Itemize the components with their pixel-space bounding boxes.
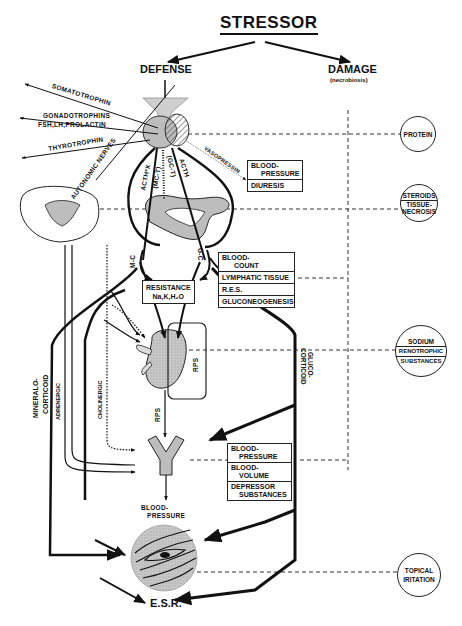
mineralocorticoid-path: [50, 268, 137, 555]
circle-steroids: STEROIDS TISSUE- NECROSIS: [400, 184, 438, 222]
label-glucocorticoid-1: GLUCO-: [307, 352, 314, 378]
retina-circle: [131, 525, 197, 591]
circle-protein: PROTEIN: [400, 116, 436, 152]
label-adrenergic: ADRENERGIC: [56, 383, 62, 420]
label-mineralocorticoid-1: MINERALO-: [32, 378, 39, 418]
label-fsh-lh-prolactin: FSH,LH,PROLACTIN: [38, 122, 106, 129]
box-vasopressin-effects: BLOOD-PRESSURE DIURESIS: [247, 160, 303, 192]
label-rps-kidney: RPS: [193, 358, 200, 372]
label-defense: DEFENSE: [140, 64, 192, 75]
label-blood-pressure-2: PRESSURE: [147, 513, 185, 520]
blood-vessel: [148, 436, 184, 475]
label-g-c: G-C: [197, 248, 204, 261]
box-resistance: RESISTANCE Na,K,H₂O: [142, 280, 195, 304]
label-mineralocorticoid-2: CORTICOID: [42, 375, 49, 414]
circle-sodium: SODIUM RENOTROPHIC SUBSTANCES: [395, 325, 447, 377]
circle-topical: TOPICAL IRITATION: [397, 553, 441, 597]
stressor-arrows: [168, 42, 350, 62]
label-damage-sub: (necrobiosis): [330, 77, 368, 83]
label-rps-vessel: RPS: [155, 408, 162, 422]
label-gonadotrophins: GONADOTROPHINS: [43, 113, 110, 120]
box-gc-effects: BLOOD-COUNT LYMPHATIC TISSUE R.E.S. GLUC…: [218, 252, 295, 308]
label-damage: DAMAGE: [328, 64, 377, 75]
label-esr: E.S.R.: [150, 598, 182, 609]
box-vessel-effects: BLOOD-PRESSURE BLOOD-VOLUME DEPRESSORSUB…: [227, 443, 292, 501]
label-blood-pressure-1: BLOOD-: [141, 505, 168, 512]
label-glucocorticoid-2: CORTICOID: [300, 348, 307, 384]
title-stressor: STRESSOR: [220, 14, 318, 35]
label-cholinergic: CHOLINERGIC: [98, 381, 104, 420]
autonomic-organ: [20, 186, 99, 242]
label-m-c: M-C: [130, 255, 137, 268]
